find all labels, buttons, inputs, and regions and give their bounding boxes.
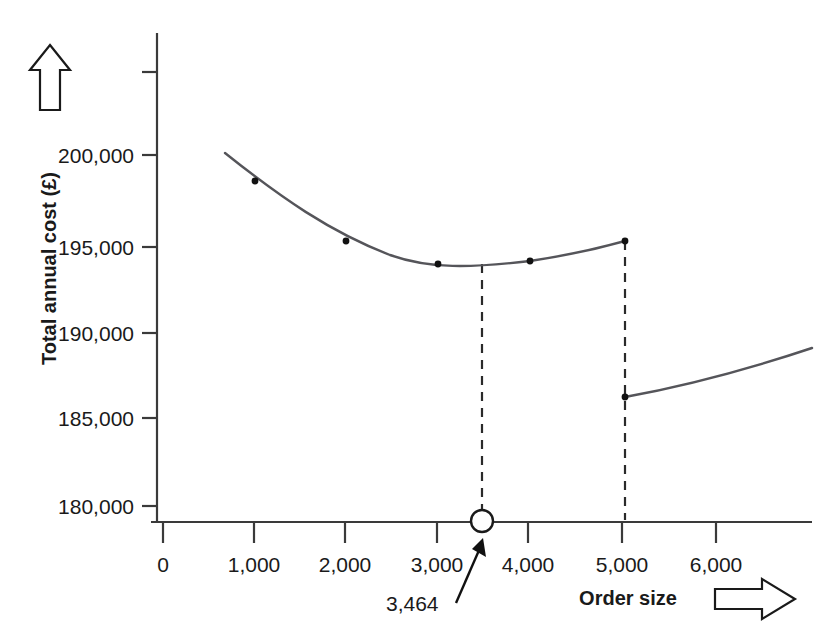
x-tick-label-5000: 5,000 <box>596 553 649 576</box>
data-point-5000-upper <box>622 238 629 245</box>
cost-curve-segment-1 <box>225 153 625 266</box>
x-tick-label-4000: 4,000 <box>502 553 555 576</box>
y-tick-label-185000: 185,000 <box>58 407 134 430</box>
y-axis-title: Total annual cost (£) <box>38 172 60 365</box>
data-point-2000 <box>343 238 350 245</box>
y-tick-label-195000: 195,000 <box>58 236 134 259</box>
y-tick-label-190000: 190,000 <box>58 322 134 345</box>
x-tick-label-6000: 6,000 <box>690 553 743 576</box>
data-point-5000-lower <box>622 394 629 401</box>
data-point-3000 <box>435 261 442 268</box>
chart-figure: 200,000 195,000 190,000 185,000 180,000 … <box>0 0 839 630</box>
x-axis-title: Order size <box>579 587 677 609</box>
data-point-1000 <box>252 178 259 185</box>
up-arrow-icon <box>30 45 70 110</box>
y-axis: 200,000 195,000 190,000 185,000 180,000 <box>58 33 157 522</box>
data-point-4000 <box>527 258 534 265</box>
line-chart-canvas: 200,000 195,000 190,000 185,000 180,000 … <box>0 0 839 630</box>
y-tick-label-200000: 200,000 <box>58 144 134 167</box>
eoq-open-circle-marker[interactable] <box>471 510 493 532</box>
right-arrow-icon <box>715 579 795 619</box>
eoq-annotation-label: 3,464 <box>386 592 439 615</box>
x-tick-label-0: 0 <box>157 553 169 576</box>
x-tick-label-3000: 3,000 <box>411 553 464 576</box>
annotation-arrow-head <box>472 538 486 557</box>
y-tick-label-180000: 180,000 <box>58 495 134 518</box>
x-tick-label-1000: 1,000 <box>228 553 281 576</box>
cost-curve-segment-2 <box>625 348 812 397</box>
x-tick-label-2000: 2,000 <box>319 553 372 576</box>
